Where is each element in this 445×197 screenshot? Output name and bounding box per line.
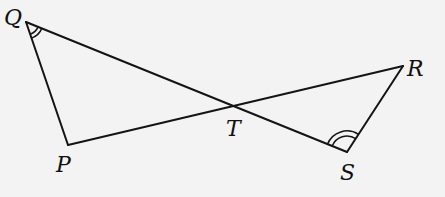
- label-q: Q: [4, 5, 22, 30]
- geometry-diagram: Q P T S R: [0, 0, 445, 197]
- segment-rs: [347, 66, 403, 152]
- label-s: S: [340, 160, 355, 185]
- label-t: T: [226, 116, 243, 141]
- segment-qs: [26, 22, 347, 152]
- label-p: P: [55, 152, 72, 177]
- segment-qp: [26, 22, 68, 145]
- label-r: R: [406, 56, 424, 81]
- angle-mark-s: [328, 131, 359, 146]
- angle-arc-q-inner: [30, 27, 38, 34]
